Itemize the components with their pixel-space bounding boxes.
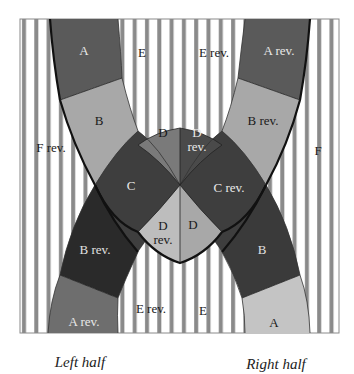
label-a-bottom-right: A: [269, 315, 279, 330]
label-d-rev-top-right-line1: D: [192, 125, 201, 140]
label-d-bottom-right: D: [188, 217, 197, 232]
label-d-top-left: D: [158, 125, 167, 140]
label-c-rev-right: C rev.: [214, 180, 245, 195]
label-d-rev-top-right-line2: rev.: [187, 139, 206, 154]
label-d-rev-bottom-left-line1: D: [158, 218, 167, 233]
label-f-rev: F rev.: [36, 140, 66, 155]
caption-left-half: Left half: [54, 354, 107, 370]
label-a-rev-bottom-left: A rev.: [69, 314, 100, 329]
label-b-rev-left: B rev.: [80, 242, 111, 257]
label-a-rev-top-right: A rev.: [264, 43, 295, 58]
strip-diagram: A E E rev. A rev. B B rev. F rev. F D D …: [0, 0, 354, 374]
label-e-rev-bottom: E rev.: [136, 301, 166, 316]
label-b-right: B: [258, 242, 267, 257]
label-f: F: [314, 143, 321, 158]
label-b-left: B: [95, 113, 104, 128]
label-a-top-left: A: [79, 43, 89, 58]
label-e-rev-top: E rev.: [199, 45, 229, 60]
label-b-rev-right: B rev.: [248, 113, 279, 128]
label-e-bottom: E: [199, 303, 207, 318]
caption-right-half: Right half: [245, 356, 307, 372]
label-d-rev-bottom-left-line2: rev.: [153, 232, 172, 247]
label-e-top: E: [138, 45, 146, 60]
label-c-left: C: [127, 178, 136, 193]
